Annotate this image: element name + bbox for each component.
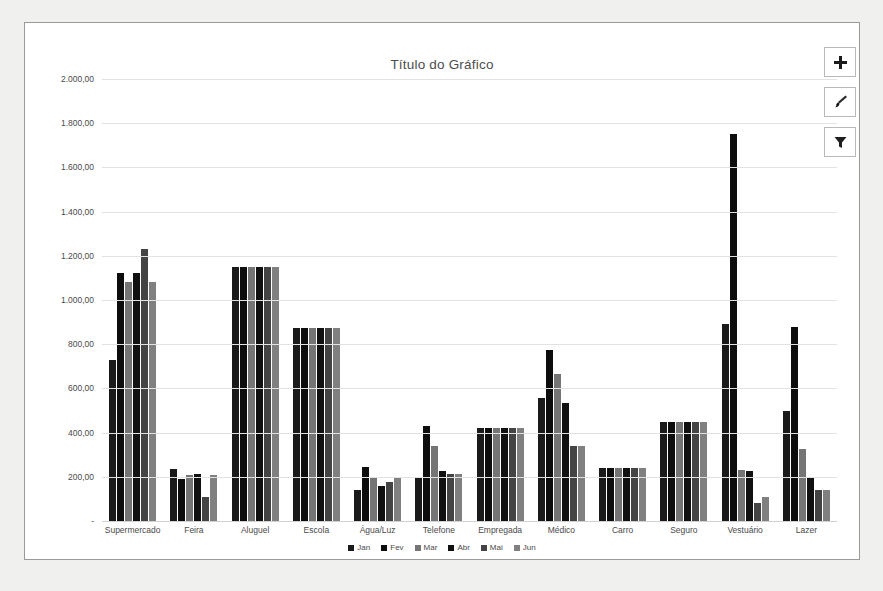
bar[interactable] [815, 490, 822, 521]
bar[interactable] [194, 474, 201, 522]
bar[interactable] [202, 497, 209, 521]
bar[interactable] [554, 374, 561, 521]
x-axis-label: Carro [592, 525, 653, 535]
bar[interactable] [240, 267, 247, 521]
bar[interactable] [562, 403, 569, 521]
bar[interactable] [493, 428, 500, 521]
bar[interactable] [309, 328, 316, 521]
y-axis-tick-label: 1.000,00 [61, 295, 94, 305]
legend-item[interactable]: Jun [514, 543, 536, 552]
gridline [102, 123, 837, 124]
bar[interactable] [546, 350, 553, 521]
bar[interactable] [354, 490, 361, 521]
x-axis-label: Empregada [470, 525, 531, 535]
y-axis-tick-label: 2.000,00 [61, 74, 94, 84]
x-axis-label: Feira [163, 525, 224, 535]
bar[interactable] [133, 273, 140, 521]
bar[interactable] [517, 428, 524, 521]
chart-legend[interactable]: JanFevMarAbrMaiJun [25, 543, 859, 552]
bar[interactable] [684, 422, 691, 521]
bar[interactable] [538, 398, 545, 521]
bar[interactable] [378, 486, 385, 521]
bar[interactable] [186, 475, 193, 521]
legend-item[interactable]: Jan [348, 543, 370, 552]
bar[interactable] [807, 478, 814, 521]
bar[interactable] [570, 446, 577, 521]
bar[interactable] [141, 249, 148, 521]
legend-item[interactable]: Abr [448, 543, 469, 552]
bar[interactable] [501, 428, 508, 521]
x-axis-label: Lazer [776, 525, 837, 535]
y-axis-tick-label: - [91, 516, 94, 526]
bar[interactable] [178, 479, 185, 521]
legend-item[interactable]: Mar [415, 543, 438, 552]
bar[interactable] [301, 328, 308, 521]
bar[interactable] [333, 328, 340, 521]
bar[interactable] [293, 328, 300, 521]
bar[interactable] [394, 478, 401, 521]
bar[interactable] [248, 267, 255, 521]
legend-label: Abr [457, 543, 469, 552]
bar[interactable] [660, 422, 667, 521]
legend-item[interactable]: Mai [481, 543, 503, 552]
x-axis-label: Escola [286, 525, 347, 535]
x-axis-label: Supermercado [102, 525, 163, 535]
bar[interactable] [370, 478, 377, 521]
bar[interactable] [125, 282, 132, 521]
gridline [102, 167, 837, 168]
bar[interactable] [386, 482, 393, 521]
bar[interactable] [362, 467, 369, 521]
legend-swatch [415, 545, 421, 551]
bar[interactable] [791, 327, 798, 521]
bar[interactable] [317, 328, 324, 521]
bar[interactable] [722, 324, 729, 521]
legend-label: Mar [424, 543, 438, 552]
x-axis-label: Médico [531, 525, 592, 535]
gridline [102, 300, 837, 301]
legend-label: Fev [390, 543, 403, 552]
bar[interactable] [264, 267, 271, 521]
chart-container[interactable]: Título do Gráfico 2.000,00 [24, 22, 860, 560]
bar[interactable] [256, 267, 263, 521]
bar[interactable] [783, 411, 790, 522]
bar[interactable] [455, 474, 462, 522]
bar[interactable] [477, 428, 484, 521]
bar[interactable] [431, 446, 438, 521]
y-axis-tick-label: 1.200,00 [61, 251, 94, 261]
gridline [102, 521, 837, 522]
bar[interactable] [149, 282, 156, 521]
bar[interactable] [823, 490, 830, 521]
gridline [102, 388, 837, 389]
chart-page: Título do Gráfico 2.000,00 [0, 0, 883, 591]
gridline [102, 433, 837, 434]
bar[interactable] [762, 497, 769, 521]
bar[interactable] [700, 422, 707, 521]
bar[interactable] [668, 422, 675, 521]
legend-item[interactable]: Fev [381, 543, 403, 552]
bar[interactable] [692, 422, 699, 521]
bar[interactable] [578, 446, 585, 521]
bar[interactable] [423, 426, 430, 521]
bar[interactable] [272, 267, 279, 521]
plot-area: 2.000,001.800,001.600,001.400,001.200,00… [26, 79, 859, 521]
bar[interactable] [109, 360, 116, 521]
bar[interactable] [746, 471, 753, 521]
bar[interactable] [799, 449, 806, 521]
bar[interactable] [117, 273, 124, 521]
bar[interactable] [439, 471, 446, 521]
bar[interactable] [754, 503, 761, 521]
gridline [102, 79, 837, 80]
chart-elements-button[interactable] [824, 47, 856, 77]
bar[interactable] [730, 134, 737, 521]
bar[interactable] [447, 474, 454, 522]
y-axis-tick-label: 1.400,00 [61, 207, 94, 217]
chart-title[interactable]: Título do Gráfico [25, 57, 859, 72]
bar[interactable] [232, 267, 239, 521]
bar[interactable] [325, 328, 332, 521]
bar[interactable] [676, 422, 683, 521]
bar[interactable] [509, 428, 516, 521]
bar[interactable] [415, 477, 422, 521]
legend-label: Mai [490, 543, 503, 552]
bar[interactable] [210, 475, 217, 521]
bar[interactable] [485, 428, 492, 521]
